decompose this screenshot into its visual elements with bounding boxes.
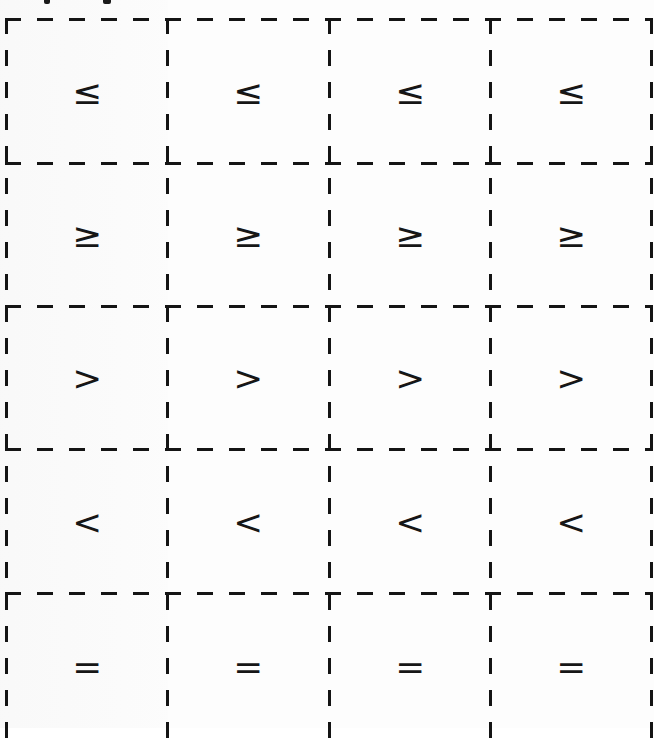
card-less-equal: ≤ — [8, 21, 166, 162]
less-than-symbol: < — [234, 502, 264, 542]
card-equals: = — [8, 595, 166, 738]
card-greater-than: > — [331, 308, 489, 448]
card-greater-equal: ≥ — [8, 165, 166, 305]
less-than-symbol: < — [556, 502, 586, 542]
card-greater-than: > — [8, 308, 166, 448]
card-less-than: < — [492, 451, 650, 592]
greater-than-symbol: > — [395, 358, 425, 398]
greater-equal-symbol: ≥ — [72, 215, 102, 255]
less-than-symbol: < — [395, 502, 425, 542]
card-greater-equal: ≥ — [331, 165, 489, 305]
clipped-heading-descender — [44, 0, 50, 4]
greater-equal-symbol: ≥ — [395, 215, 425, 255]
cut-out-card-grid: ≤ ≤ ≤ ≤ ≥ ≥ ≥ ≥ > > > > < < < < = = = = — [5, 18, 652, 738]
card-equals: = — [169, 595, 328, 738]
greater-than-symbol: > — [72, 358, 102, 398]
card-less-than: < — [8, 451, 166, 592]
card-less-equal: ≤ — [492, 21, 650, 162]
card-greater-than: > — [169, 308, 328, 448]
greater-equal-symbol: ≥ — [234, 215, 264, 255]
greater-equal-symbol: ≥ — [556, 215, 586, 255]
equals-symbol: = — [395, 647, 425, 687]
card-less-equal: ≤ — [331, 21, 489, 162]
card-greater-equal: ≥ — [492, 165, 650, 305]
dashed-cut-line — [650, 18, 653, 738]
equals-symbol: = — [72, 647, 102, 687]
card-less-than: < — [331, 451, 489, 592]
card-less-equal: ≤ — [169, 21, 328, 162]
card-greater-equal: ≥ — [169, 165, 328, 305]
equals-symbol: = — [556, 647, 586, 687]
card-greater-than: > — [492, 308, 650, 448]
clipped-heading-descender — [103, 0, 111, 4]
less-than-symbol: < — [72, 502, 102, 542]
greater-than-symbol: > — [234, 358, 264, 398]
card-less-than: < — [169, 451, 328, 592]
card-equals: = — [331, 595, 489, 738]
less-equal-symbol: ≤ — [556, 72, 586, 112]
less-equal-symbol: ≤ — [395, 72, 425, 112]
equals-symbol: = — [234, 647, 264, 687]
less-equal-symbol: ≤ — [234, 72, 264, 112]
card-equals: = — [492, 595, 650, 738]
greater-than-symbol: > — [556, 358, 586, 398]
less-equal-symbol: ≤ — [72, 72, 102, 112]
